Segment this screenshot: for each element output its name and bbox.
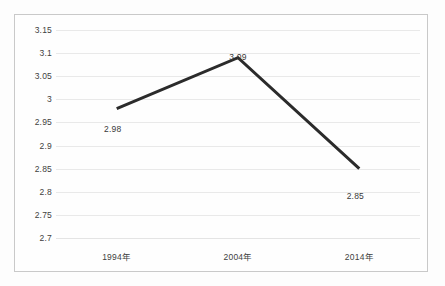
chart-screenshot: 3.153.13.0532.952.92.852.82.752.7 1994年2…	[0, 0, 445, 286]
data-point-labels: 2.983.092.85	[0, 0, 445, 286]
data-point-label: 3.09	[229, 52, 246, 62]
data-point-label: 2.98	[104, 124, 121, 134]
data-point-label: 2.85	[347, 191, 364, 201]
